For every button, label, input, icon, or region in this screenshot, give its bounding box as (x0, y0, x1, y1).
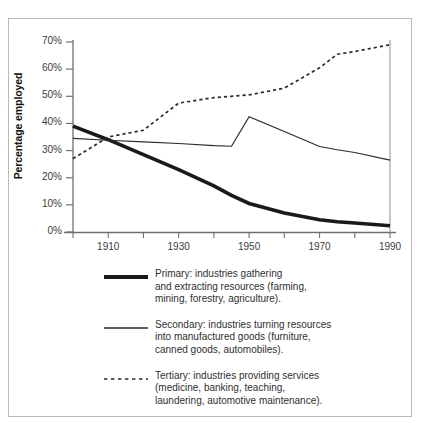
y-axis-tick-label: 40% (14, 116, 62, 127)
legend-swatch-tertiary (104, 370, 148, 383)
x-axis-tick-label: 1970 (290, 241, 350, 252)
y-axis-ticks (66, 42, 73, 232)
x-axis-tick-label: 1930 (149, 241, 209, 252)
x-axis-tick-label: 1950 (219, 241, 279, 252)
y-axis-tick-label: 70% (14, 35, 62, 46)
figure: Percentage employed 0%10%20%30%40%50%60%… (0, 0, 425, 423)
y-axis-tick-label: 60% (14, 62, 62, 73)
x-axis-tick-label: 1910 (78, 241, 138, 252)
y-axis-tick-label: 0% (14, 225, 62, 236)
y-axis-tick-label: 50% (14, 89, 62, 100)
legend-label-tertiary: Tertiary: industries providing services … (155, 370, 322, 408)
y-axis-tick-label: 10% (14, 198, 62, 209)
legend-item-secondary: Secondary: industries turning resources … (0, 319, 425, 357)
legend-label-primary: Primary: industries gathering and extrac… (155, 268, 307, 306)
series-line-secondary (73, 117, 390, 160)
y-axis-tick-label: 20% (14, 171, 62, 182)
thick-solid-line-icon (104, 274, 148, 280)
chart-legend: Primary: industries gathering and extrac… (0, 268, 425, 420)
legend-swatch-primary (104, 268, 148, 281)
thin-solid-line-icon (104, 325, 148, 331)
dotted-line-icon (104, 376, 148, 382)
legend-item-tertiary: Tertiary: industries providing services … (0, 370, 425, 408)
legend-item-primary: Primary: industries gathering and extrac… (0, 268, 425, 306)
legend-label-secondary: Secondary: industries turning resources … (155, 319, 331, 357)
chart-plot-area: Percentage employed 0%10%20%30%40%50%60%… (0, 0, 425, 270)
data-series-layer (73, 45, 390, 226)
legend-swatch-secondary (104, 319, 148, 332)
line-chart-svg (0, 0, 425, 270)
x-axis-tick-label: 1990 (360, 241, 420, 252)
y-axis-tick-label: 30% (14, 144, 62, 155)
series-line-tertiary (73, 45, 390, 159)
